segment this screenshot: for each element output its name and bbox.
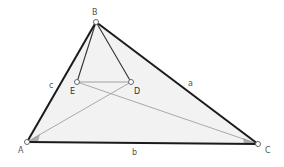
label-d: D <box>134 87 140 96</box>
point-e[interactable] <box>75 80 80 85</box>
label-b: B <box>92 8 98 17</box>
point-b[interactable] <box>94 20 99 25</box>
diagram-svg: B E D A C a b c <box>0 0 284 167</box>
label-a: A <box>18 146 24 155</box>
point-d[interactable] <box>129 80 134 85</box>
point-c[interactable] <box>256 142 261 147</box>
label-c: C <box>265 146 271 155</box>
geometry-diagram: B E D A C a b c <box>0 0 284 167</box>
label-side-c: c <box>49 81 53 90</box>
label-side-b: b <box>132 148 137 157</box>
label-e: E <box>70 87 75 96</box>
label-side-a: a <box>188 79 193 88</box>
point-a[interactable] <box>25 140 30 145</box>
